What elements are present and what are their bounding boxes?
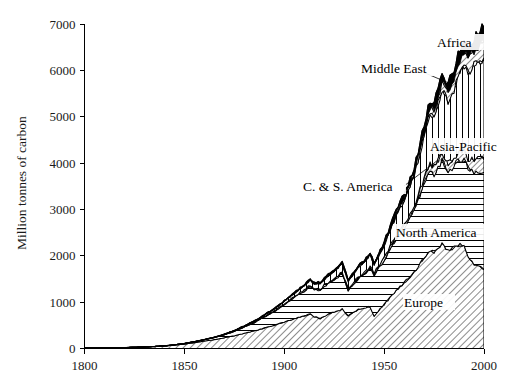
y-tick-label: 4000: [50, 156, 76, 171]
y-tick-label: 5000: [50, 109, 76, 124]
series-label-asia-pacific: Asia-Pacific: [430, 139, 497, 154]
x-tick-label: 1900: [271, 358, 297, 373]
y-axis-title: Million tonnes of carbon: [14, 116, 29, 250]
x-tick-label: 1800: [72, 358, 98, 373]
y-tick-label: 0: [69, 341, 76, 356]
y-tick-label: 2000: [50, 248, 76, 263]
co2-emissions-stacked-area-chart: Africa Middle East Asia-Pacific C. & S. …: [0, 0, 516, 388]
series-label-north-america: North America: [396, 225, 477, 240]
y-tick-label: 1000: [50, 295, 76, 310]
x-tick-label: 1850: [171, 358, 197, 373]
chart-figure: Africa Middle East Asia-Pacific C. & S. …: [0, 0, 516, 388]
x-tick-label: 1950: [371, 358, 397, 373]
y-tick-label: 7000: [50, 17, 76, 32]
x-tick-label: 2000: [471, 358, 497, 373]
y-tick-label: 6000: [50, 63, 76, 78]
series-label-africa: Africa: [437, 35, 471, 50]
series-label-cs-america: C. & S. America: [303, 179, 393, 194]
y-tick-label: 3000: [50, 202, 76, 217]
series-label-europe: Europe: [404, 295, 443, 310]
series-label-middle-east: Middle East: [361, 61, 427, 76]
